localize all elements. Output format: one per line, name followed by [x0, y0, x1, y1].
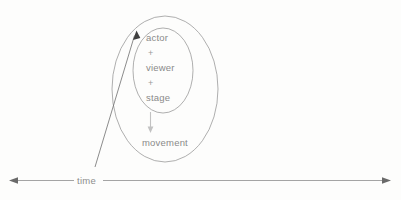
axis-label-time: time — [77, 175, 96, 186]
label-plus-1: + — [148, 48, 153, 58]
right-arrowhead-icon — [382, 177, 391, 184]
label-viewer: viewer — [146, 62, 175, 73]
label-actor: actor — [146, 32, 168, 43]
label-plus-2: + — [148, 78, 153, 88]
time-axis: time — [9, 175, 391, 186]
left-arrowhead-icon — [9, 177, 18, 184]
label-stage: stage — [146, 92, 170, 103]
diagonal-arrow-icon — [95, 31, 140, 168]
downward-arrow-icon — [148, 112, 154, 133]
diagram-canvas: actor + viewer + stage movement time — [0, 0, 401, 200]
label-movement: movement — [142, 137, 188, 148]
